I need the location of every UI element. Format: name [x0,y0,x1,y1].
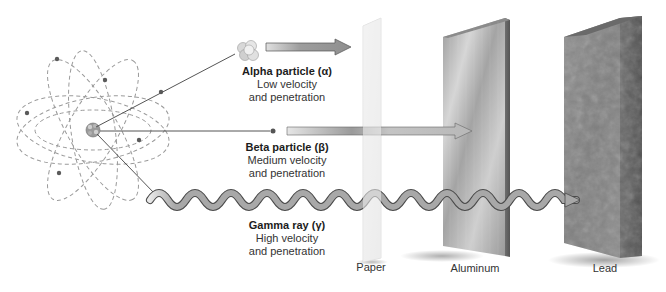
beta-label: Beta particle (β) Medium velocity and pe… [222,141,352,180]
gamma-desc-1: High velocity [222,232,352,245]
electron-icons [25,57,163,175]
atom-icon [12,48,175,213]
radiation-penetration-diagram: Alpha particle (α) Low velocity and pene… [0,0,666,292]
alpha-label: Alpha particle (α) Low velocity and pene… [222,65,352,104]
alpha-title: Alpha particle (α) [222,65,352,78]
aluminum-sheet [400,18,510,262]
alpha-desc-1: Low velocity [222,78,352,91]
lead-block [548,16,660,268]
gamma-desc-2: and penetration [222,245,352,258]
beta-desc-1: Medium velocity [222,154,352,167]
alpha-desc-2: and penetration [222,91,352,104]
gamma-title: Gamma ray (γ) [222,219,352,232]
beta-title: Beta particle (β) [222,141,352,154]
paper-sheet-front [363,18,381,262]
beta-desc-2: and penetration [222,167,352,180]
alpha-particle-arrow [238,39,352,61]
gamma-label: Gamma ray (γ) High velocity and penetrat… [222,219,352,258]
paper-label: Paper [336,261,406,273]
aluminum-label: Aluminum [440,262,510,274]
alpha-particle-icon [238,41,259,61]
lead-label: Lead [570,262,640,274]
